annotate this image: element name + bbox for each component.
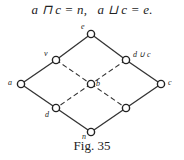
node-e [87,30,94,37]
node-n [87,128,94,135]
label-b: b [96,79,100,88]
label-e: e [81,22,85,31]
node-a [17,80,24,87]
node-br [122,104,129,111]
label-duc: d ∪ c [133,50,151,59]
node-c [157,80,164,87]
lattice-diagram [0,0,184,160]
node-b [87,80,94,87]
label-d: d [45,110,49,119]
node-v [52,56,59,63]
figure-caption: Fig. 35 [0,138,184,154]
node-duc [122,56,129,63]
label-c: c [168,78,172,87]
node-d [52,104,59,111]
label-a: a [8,78,12,87]
nodes [17,30,164,135]
label-v: v [44,49,48,58]
